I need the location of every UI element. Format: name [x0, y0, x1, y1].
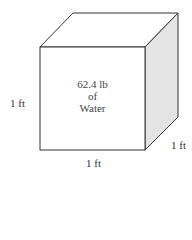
weight-text: 62.4 lb	[40, 78, 145, 90]
depth-label: 1 ft	[171, 139, 186, 151]
width-label: 1 ft	[86, 157, 101, 169]
cube-content-label: 62.4 lb of Water	[40, 78, 145, 114]
of-text: of	[40, 90, 145, 102]
height-label: 1 ft	[10, 97, 25, 109]
substance-text: Water	[40, 102, 145, 114]
